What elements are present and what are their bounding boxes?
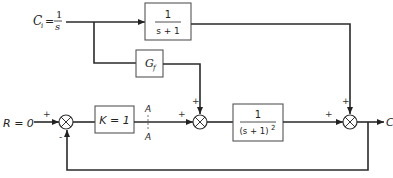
wire-feedforward-to-sum3 [191,24,350,114]
svg-text:A: A [144,132,151,142]
wire-ci-to-gf [94,22,136,63]
svg-text:(s + 1): (s + 1) [240,126,269,136]
block-plant: 1 (s + 1) 2 [233,104,283,141]
svg-text:A: A [144,104,151,114]
svg-text:s: s [55,21,60,32]
svg-text:2: 2 [271,124,275,132]
svg-text:1: 1 [165,9,171,20]
wire-gf-to-sum2 [163,64,200,114]
svg-text:+: + [325,109,333,119]
summing-junction-1 [59,115,73,129]
block-feedforward-gain: G f [136,50,163,77]
svg-text:+: + [43,109,51,119]
reference-input-label: R = 0 [3,117,34,130]
block-controller: K = 1 [95,106,134,133]
break-point-a: A A [144,104,151,142]
summing-junction-3 [343,115,357,129]
svg-text:+: + [178,109,186,119]
svg-text:=: = [45,15,54,28]
svg-text:s + 1: s + 1 [156,26,180,36]
output-label: C [386,116,393,129]
summing-junction-2 [193,115,207,129]
svg-text:-: - [59,132,62,142]
svg-text:K = 1: K = 1 [99,114,129,127]
svg-text:1: 1 [56,9,62,20]
svg-text:+: + [342,96,350,106]
block-feedforward-plant: 1 s + 1 [145,3,191,40]
disturbance-input-label: C i = 1 s [33,9,62,32]
block-diagram: C i = 1 s 1 s + 1 G f R = 0 + - [0,0,393,178]
svg-text:1: 1 [255,109,261,120]
svg-text:+: + [192,96,200,106]
svg-text:i: i [41,22,43,30]
